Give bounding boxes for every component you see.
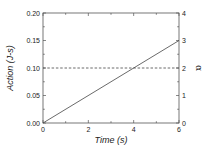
chart: 02460.000.050.100.150.2001234 Time (s) A… [0, 0, 205, 156]
action-line [43, 41, 179, 124]
plot-frame [43, 13, 179, 123]
y-axis-label: Action (J-s) [5, 45, 15, 92]
y2-tick-label: 1 [182, 92, 186, 99]
y-tick-label: 0.20 [26, 10, 40, 17]
x-tick-label: 2 [86, 126, 90, 133]
plot-area: 02460.000.050.100.150.2001234 [26, 10, 186, 134]
y-tick-label: 0.00 [26, 120, 40, 127]
y2-tick-label: 4 [182, 10, 186, 17]
y-tick-label: 0.15 [26, 37, 40, 44]
x-tick-label: 0 [41, 126, 45, 133]
x-tick-label: 4 [132, 126, 136, 133]
y2-tick-label: 2 [182, 65, 186, 72]
x-axis-label: Time (s) [95, 135, 128, 145]
y2-tick-label: 0 [182, 120, 186, 127]
y2-tick-label: 3 [182, 37, 186, 44]
x-tick-label: 6 [177, 126, 181, 133]
y2-axis-label: α [194, 65, 204, 71]
y-tick-label: 0.10 [26, 65, 40, 72]
y-tick-label: 0.05 [26, 92, 40, 99]
